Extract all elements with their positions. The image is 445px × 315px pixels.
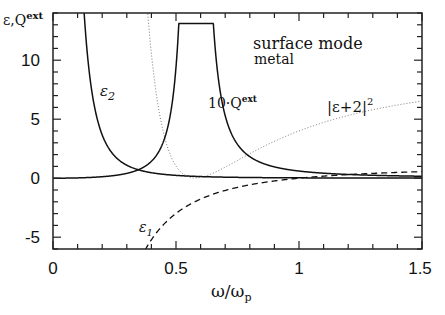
curve-eps2: [83, 0, 422, 178]
chart: 10 5 0 -5 0 0.5 1 1.5 ε,Qext ω/ωp surfac…: [0, 0, 445, 315]
x-tick-1.5: 1.5: [408, 259, 432, 278]
label-eps1: ε1: [139, 219, 153, 238]
chart-subtitle: metal: [254, 51, 295, 67]
x-tick-0: 0: [48, 259, 57, 278]
label-abs-eps-plus-2-sq: |ε+2|2: [327, 96, 373, 116]
y-tick-0: 0: [31, 169, 40, 188]
x-tick-1: 1: [294, 259, 303, 278]
label-10Qext: 10·Qext: [208, 94, 258, 111]
y-tick-minus5: -5: [25, 228, 40, 247]
x-axis-label: ω/ωp: [211, 281, 252, 304]
plot-frame: [53, 13, 422, 249]
x-tick-0.5: 0.5: [164, 259, 188, 278]
axis-ticks: [53, 13, 422, 249]
y-axis-label: ε,Qext: [3, 10, 44, 28]
y-tick-5: 5: [31, 110, 40, 129]
y-tick-10: 10: [21, 51, 40, 70]
curve-abs-eps-plus-2-sq: [127, 0, 422, 178]
plot-curves: [53, 0, 422, 296]
label-eps2: ε2: [100, 82, 115, 103]
